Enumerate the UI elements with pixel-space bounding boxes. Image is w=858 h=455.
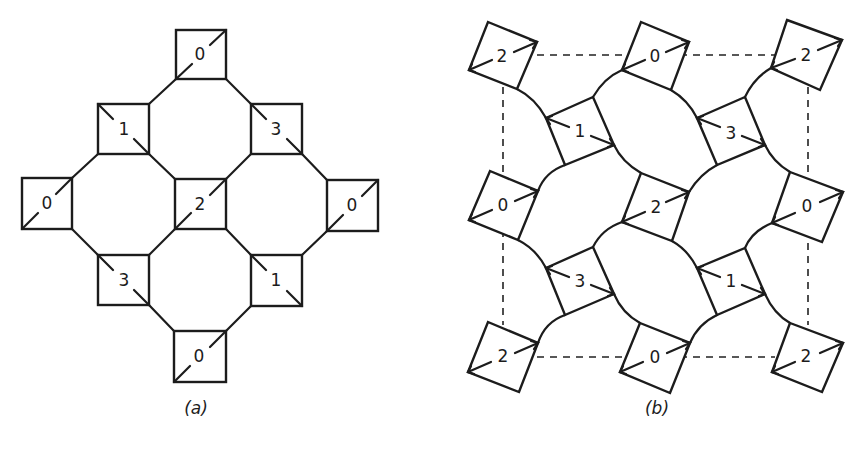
square-b-inner-1-lower: 1 xyxy=(697,248,765,315)
svg-text:0: 0 xyxy=(650,347,661,367)
svg-text:0: 0 xyxy=(42,193,53,213)
square-a-right-0: 0 xyxy=(327,180,378,231)
square-a-lower-right-1: 1 xyxy=(251,255,302,306)
svg-text:2: 2 xyxy=(195,194,206,214)
svg-text:0: 0 xyxy=(195,44,206,64)
panel-b: 2 0 2 1 3 xyxy=(468,20,843,418)
square-a-upper-right-3: 3 xyxy=(251,104,302,154)
square-a-upper-left-1: 1 xyxy=(98,104,149,154)
square-a-bottom-0: 0 xyxy=(174,331,226,382)
square-b-center-2: 2 xyxy=(622,173,689,241)
svg-text:2: 2 xyxy=(801,346,812,366)
svg-text:1: 1 xyxy=(726,271,737,291)
square-b-bottom-middle-0: 0 xyxy=(620,323,690,393)
square-a-left-0: 0 xyxy=(22,178,72,229)
panel-a: 0 1 3 0 2 0 3 xyxy=(22,30,378,418)
svg-text:0: 0 xyxy=(802,196,813,216)
square-a-lower-left-3: 3 xyxy=(98,255,149,305)
svg-text:1: 1 xyxy=(271,270,282,290)
svg-text:2: 2 xyxy=(651,197,662,217)
svg-text:0: 0 xyxy=(194,346,205,366)
square-b-inner-3-lower: 3 xyxy=(546,247,614,315)
square-b-top-right-2: 2 xyxy=(771,20,842,90)
caption-a: (a) xyxy=(184,398,208,418)
svg-text:1: 1 xyxy=(119,119,130,139)
square-b-inner-3-upper: 3 xyxy=(697,97,765,165)
square-b-bottom-left-2: 2 xyxy=(468,322,538,392)
square-b-middle-right-0: 0 xyxy=(772,172,843,242)
svg-text:2: 2 xyxy=(497,46,508,66)
svg-text:3: 3 xyxy=(119,270,130,290)
figure-canvas: 0 1 3 0 2 0 3 xyxy=(0,0,858,455)
square-b-bottom-right-2: 2 xyxy=(772,323,843,392)
square-b-top-left-2: 2 xyxy=(469,22,537,89)
svg-text:3: 3 xyxy=(575,271,586,291)
svg-text:2: 2 xyxy=(498,346,509,366)
svg-text:0: 0 xyxy=(347,195,358,215)
svg-text:1: 1 xyxy=(575,121,586,141)
square-a-top-0: 0 xyxy=(176,30,226,79)
square-a-center-2: 2 xyxy=(175,179,226,229)
square-b-top-middle-0: 0 xyxy=(622,22,689,90)
svg-text:3: 3 xyxy=(726,123,737,143)
svg-text:3: 3 xyxy=(271,119,282,139)
square-b-inner-1-upper: 1 xyxy=(546,97,614,165)
svg-text:0: 0 xyxy=(650,46,661,66)
svg-text:0: 0 xyxy=(498,195,509,215)
square-b-middle-left-0: 0 xyxy=(469,171,538,240)
svg-text:2: 2 xyxy=(801,45,812,65)
caption-b: (b) xyxy=(645,398,669,418)
